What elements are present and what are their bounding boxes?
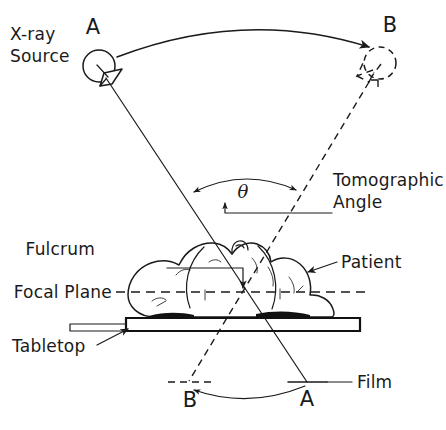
xray-source-label-line2: Source: [10, 46, 70, 66]
patient-figure: [128, 241, 334, 318]
patient-limb-arc-left: [186, 247, 204, 308]
tube-base-b: [371, 80, 382, 88]
film-travel-arc: [194, 386, 305, 399]
tabletop: [70, 318, 360, 331]
tabletop-slab: [126, 318, 360, 331]
tube-travel-arc: [117, 30, 369, 57]
source-label-b: B: [383, 13, 397, 37]
tube-head-circle-b: [364, 47, 396, 79]
tabletop-edge-left: [70, 324, 126, 331]
patient-contour-3: [157, 301, 166, 306]
diagram-canvas: A B θ Tomographic Angle: [0, 0, 446, 430]
film-label: Film: [357, 372, 392, 392]
xray-source-label-line1: X-ray: [10, 24, 55, 44]
patient-contour-6: [297, 286, 303, 292]
film-label-b: B: [183, 388, 197, 412]
xray-tube-position-b: [357, 47, 396, 88]
tomographic-angle-leader: [225, 203, 332, 213]
patient-contour-5: [289, 277, 294, 293]
source-label-a: A: [86, 15, 101, 39]
central-ray-b: [189, 82, 369, 381]
tomographic-angle-label-line2: Angle: [333, 192, 382, 212]
tomographic-angle-label-line1: Tomographic: [332, 170, 444, 190]
patient-label: Patient: [341, 252, 402, 272]
xray-tube-position-a: [83, 50, 122, 86]
patient-leader: [308, 262, 337, 272]
fulcrum-label: Fulcrum: [26, 239, 95, 259]
tomography-diagram: A B θ Tomographic Angle: [0, 0, 446, 430]
fulcrum-leader: [167, 268, 243, 288]
patient-contour-7: [209, 260, 221, 262]
patient-contour-2: [152, 298, 166, 301]
theta-symbol: θ: [238, 181, 249, 202]
film-label-a: A: [300, 387, 315, 411]
tube-focal-spot-b: [372, 64, 381, 76]
tabletop-label: Tabletop: [11, 336, 85, 356]
patient-body-outline: [128, 243, 334, 317]
central-ray-a: [106, 78, 307, 382]
focal-plane-label: Focal Plane: [14, 282, 112, 302]
